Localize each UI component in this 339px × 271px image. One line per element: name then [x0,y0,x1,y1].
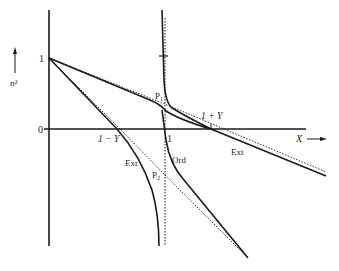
ord-curve-lower [162,110,248,258]
y-axis-label: n² [10,78,18,88]
x-tick-1: 1 [167,133,172,144]
label-p1: P1 [155,91,163,102]
x-axis-label: X [295,133,303,144]
y-tick-1: 1 [39,53,44,64]
y-axis-arrow-icon [13,47,17,73]
x-tick-1-plus-y: 1 + Y [201,111,224,121]
y-tick-0: 0 [38,124,43,135]
x-tick-1-minus-y: 1 − Y [98,134,121,144]
label-ext-lower: Ext [125,158,138,168]
label-ord: Ord [172,155,186,165]
label-p2: P2 [152,170,160,181]
x-axis-arrow-icon [307,137,327,141]
dispersion-diagram: n² 1 0 1 − Y 1 1 + Y X P1 P2 Ext Ord Ext [0,0,339,271]
label-ext-upper: Ext [231,147,244,157]
ext-lower-dashed [49,58,248,258]
